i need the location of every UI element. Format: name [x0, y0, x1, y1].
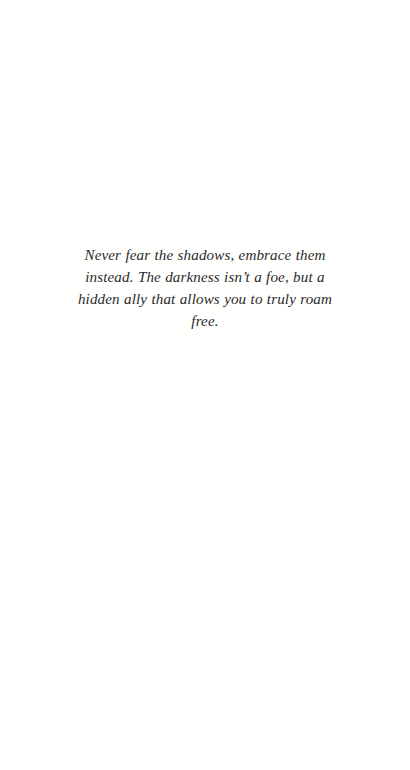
paper-grain-texture	[0, 0, 410, 770]
page-canvas: Never fear the shadows, embrace them ins…	[0, 0, 410, 770]
quotation-block: Never fear the shadows, embrace them ins…	[66, 244, 344, 332]
quotation-text: Never fear the shadows, embrace them ins…	[66, 244, 344, 332]
